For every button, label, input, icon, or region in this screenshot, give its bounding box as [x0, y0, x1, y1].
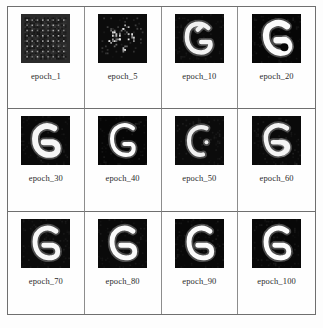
gan-epoch-sample-figure: epoch_1epoch_5epoch_10epoch_20epoch_30ep…: [0, 0, 323, 328]
epoch-label: epoch_50: [182, 173, 216, 183]
epoch-sample-grid: epoch_1epoch_5epoch_10epoch_20epoch_30ep…: [7, 6, 316, 315]
generated-sample-image: [21, 219, 70, 268]
epoch-sample-cell: epoch_70: [8, 212, 85, 314]
epoch-label: epoch_80: [106, 276, 140, 286]
generated-sample-image: [252, 219, 301, 268]
epoch-sample-cell: epoch_1: [8, 7, 85, 109]
epoch-label: epoch_20: [260, 71, 294, 81]
generated-sample-image: [98, 14, 147, 63]
generated-sample-image: [175, 14, 224, 63]
epoch-sample-cell: epoch_5: [85, 7, 162, 109]
generated-sample-image: [21, 14, 70, 63]
generated-sample-image: [21, 116, 70, 165]
generated-sample-image: [252, 116, 301, 165]
generated-sample-image: [175, 116, 224, 165]
epoch-sample-cell: epoch_40: [85, 109, 162, 211]
epoch-sample-cell: epoch_50: [162, 109, 239, 211]
epoch-label: epoch_90: [182, 276, 216, 286]
epoch-label: epoch_5: [108, 71, 138, 81]
epoch-label: epoch_40: [106, 173, 140, 183]
epoch-label: epoch_70: [29, 276, 63, 286]
epoch-label: epoch_60: [260, 173, 294, 183]
epoch-label: epoch_100: [257, 276, 296, 286]
epoch-label: epoch_1: [31, 71, 61, 81]
epoch-sample-cell: epoch_60: [238, 109, 315, 211]
generated-sample-image: [98, 219, 147, 268]
epoch-sample-cell: epoch_20: [238, 7, 315, 109]
epoch-sample-cell: epoch_80: [85, 212, 162, 314]
epoch-sample-cell: epoch_100: [238, 212, 315, 314]
generated-sample-image: [98, 116, 147, 165]
generated-sample-image: [175, 219, 224, 268]
epoch-label: epoch_30: [29, 173, 63, 183]
epoch-sample-cell: epoch_30: [8, 109, 85, 211]
epoch-sample-cell: epoch_90: [162, 212, 239, 314]
epoch-sample-cell: epoch_10: [162, 7, 239, 109]
epoch-label: epoch_10: [182, 71, 216, 81]
generated-sample-image: [252, 14, 301, 63]
